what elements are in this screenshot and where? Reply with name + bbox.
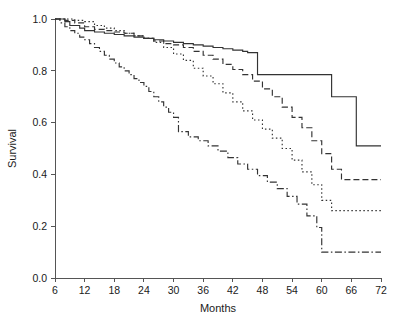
axes-group [55,19,381,278]
x-tick-label: 60 [316,284,328,296]
y-tick-label: 0.0 [32,272,47,284]
y-tick-label: 0.8 [32,65,47,77]
x-tick-label: 48 [257,284,269,296]
survival-chart: 0.00.20.40.60.81.0 612182430364248546066… [0,0,395,321]
y-tick-label: 0.4 [32,168,47,180]
y-tick-label: 0.2 [32,220,47,232]
x-tick-label: 42 [227,284,239,296]
x-tick-label: 12 [79,284,91,296]
y-axis-ticks: 0.00.20.40.60.81.0 [32,13,55,284]
x-tick-label: 6 [52,284,58,296]
x-tick-label: 36 [197,284,209,296]
curve-solid [55,19,381,146]
x-tick-label: 30 [168,284,180,296]
y-axis-title: Survival [6,129,18,168]
y-tick-label: 1.0 [32,13,47,25]
curve-dashed [55,19,381,180]
survival-curves-group [55,19,381,252]
y-tick-label: 0.6 [32,116,47,128]
x-tick-label: 72 [375,284,387,296]
x-axis-title: Months [200,302,237,314]
x-tick-label: 66 [346,284,358,296]
x-tick-label: 18 [108,284,120,296]
x-tick-label: 54 [286,284,298,296]
x-axis-ticks: 61218243036424854606672 [52,278,387,296]
survival-plot-svg: 0.00.20.40.60.81.0 612182430364248546066… [0,0,395,321]
curve-dash-dot [55,19,381,252]
x-tick-label: 24 [138,284,150,296]
